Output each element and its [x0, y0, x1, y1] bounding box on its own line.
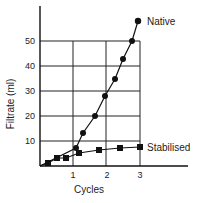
y-tick-10: 10: [25, 136, 35, 146]
y-tick-50: 50: [25, 36, 35, 46]
x-axis-label: Cycles: [74, 184, 104, 195]
native-label: Native: [147, 16, 176, 27]
filtrate-chart: 10 20 30 40 50 1 2 3 Cycles Filtrate (ml…: [0, 0, 197, 203]
y-axis-label: Filtrate (ml): [5, 79, 16, 130]
x-tick-2: 2: [104, 170, 109, 180]
y-tick-30: 30: [25, 86, 35, 96]
stabilised-label: Stabilised: [147, 142, 190, 153]
x-tick-3: 3: [137, 170, 142, 180]
series-stabilised: Stabilised: [40, 142, 190, 166]
y-tick-40: 40: [25, 61, 35, 71]
y-tick-20: 20: [25, 111, 35, 121]
x-tick-1: 1: [70, 170, 75, 180]
